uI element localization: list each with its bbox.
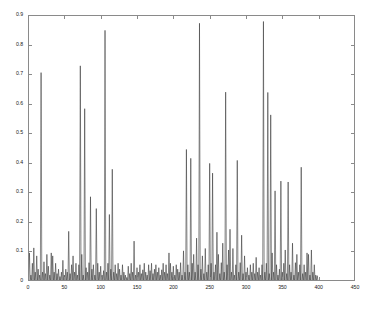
y-tick-label: 0.7 [0,72,23,77]
x-tick-label: 150 [133,285,141,290]
x-tick-label: 200 [169,285,177,290]
y-tick-label: 0.8 [0,42,23,47]
plot-svg [28,15,355,281]
x-tick-label: 300 [242,285,250,290]
x-tick-label: 250 [205,285,213,290]
y-tick-label: 0.3 [0,190,23,195]
x-tick-label: 100 [96,285,104,290]
y-tick-label: 0.9 [0,12,23,17]
x-tick-label: 400 [314,285,322,290]
plot-area [28,15,355,281]
x-tick-label: 350 [278,285,286,290]
y-tick-label: 0.5 [0,131,23,136]
y-tick-label: 0.4 [0,160,23,165]
y-tick-label: 0.1 [0,249,23,254]
y-tick-label: 0.6 [0,101,23,106]
x-tick-label: 50 [62,285,68,290]
x-tick-label: 450 [351,285,359,290]
y-tick-label: 0.2 [0,219,23,224]
x-tick-label: 0 [27,285,30,290]
figure-container: 00.10.20.30.40.50.60.70.80.9 05010015020… [0,0,371,311]
y-tick-label: 0 [0,278,23,283]
